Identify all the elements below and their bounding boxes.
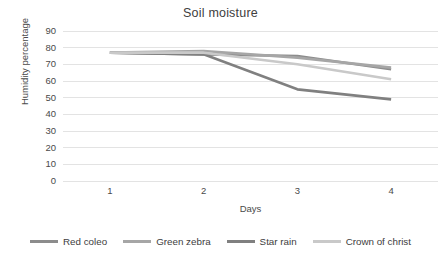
chart-title: Soil moisture: [0, 6, 441, 20]
y-tick-label: 30: [45, 126, 56, 136]
legend-swatch-line-icon: [227, 240, 255, 243]
legend-swatch-line-icon: [123, 240, 151, 243]
plot-lines-svg: [63, 31, 438, 181]
y-tick-label: 10: [45, 160, 56, 170]
series-line-crown-of-christ: [110, 53, 391, 80]
legend-swatch-line-icon: [30, 240, 58, 243]
legend-item[interactable]: Crown of christ: [313, 237, 411, 247]
y-tick-label: 40: [45, 110, 56, 120]
y-tick-label: 70: [45, 60, 56, 70]
plot-area: [63, 31, 438, 181]
legend-item[interactable]: Star rain: [227, 237, 297, 247]
chart-container: Soil moisture Humidity percentage 908070…: [0, 0, 441, 267]
x-axis-title: Days: [63, 203, 438, 214]
y-tick-label: 20: [45, 143, 56, 153]
x-tick-label: 4: [388, 186, 393, 196]
y-tick-label: 60: [45, 76, 56, 86]
y-tick-label: 0: [51, 176, 56, 186]
x-tick-label: 1: [107, 186, 112, 196]
legend-label: Red coleo: [63, 237, 107, 247]
chart-legend: Red coleoGreen zebraStar rainCrown of ch…: [0, 237, 441, 247]
legend-item[interactable]: Red coleo: [30, 237, 107, 247]
legend-label: Green zebra: [156, 237, 210, 247]
y-tick-label: 50: [45, 93, 56, 103]
x-tick-label: 2: [201, 186, 206, 196]
x-tick-label: 3: [295, 186, 300, 196]
y-tick-label: 90: [45, 26, 56, 36]
legend-item[interactable]: Green zebra: [123, 237, 210, 247]
y-axis-tick-labels: 9080706050403020100: [28, 31, 60, 181]
legend-label: Crown of christ: [346, 237, 411, 247]
legend-label: Star rain: [260, 237, 297, 247]
x-axis-tick-labels: 1234: [63, 186, 438, 200]
y-tick-label: 80: [45, 43, 56, 53]
legend-swatch-line-icon: [313, 240, 341, 243]
